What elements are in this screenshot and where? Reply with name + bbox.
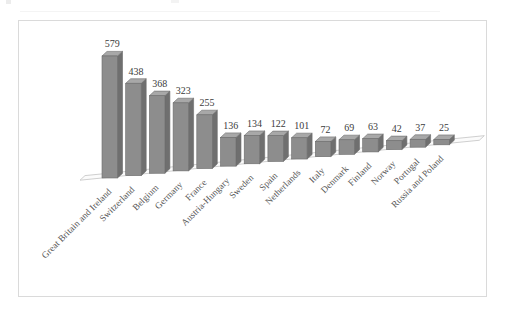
bar-front-face	[363, 139, 379, 152]
bar-front-face	[244, 136, 260, 164]
bar-side-face	[165, 91, 170, 173]
bar-front-face	[197, 115, 213, 169]
scan-artifact-mark	[171, 0, 179, 3]
bar-column[interactable]	[221, 133, 242, 166]
bar-column[interactable]	[410, 135, 431, 147]
scan-artifact-mark	[20, 11, 440, 12]
bar-front-face	[173, 103, 189, 171]
bar-front-face	[410, 139, 426, 147]
bar-column[interactable]	[126, 79, 147, 176]
bar-chart-plot-area: 579Great Britain and Ireland438Switzerla…	[19, 21, 486, 296]
chart-frame: 579Great Britain and Ireland438Switzerla…	[18, 20, 487, 297]
scan-artifact-mark	[6, 0, 11, 4]
bar-front-face	[126, 83, 142, 175]
bar-front-face	[339, 140, 355, 155]
bar-front-face	[102, 56, 118, 178]
bar-column[interactable]	[102, 51, 123, 178]
bar-front-face	[221, 137, 237, 166]
bar-side-face	[236, 133, 241, 166]
bar-column[interactable]	[197, 110, 218, 168]
bar-side-face	[118, 51, 123, 178]
bar-front-face	[268, 136, 284, 162]
bar-column[interactable]	[268, 131, 289, 161]
bar-column[interactable]	[244, 131, 265, 164]
bar-front-face	[386, 141, 402, 150]
bar-side-face	[141, 79, 146, 176]
bar-front-face	[434, 140, 450, 145]
bar-front-face	[315, 141, 331, 156]
bar-front-face	[149, 96, 165, 174]
bar-front-face	[292, 138, 308, 159]
bar-side-face	[212, 110, 217, 168]
bar-side-face	[260, 131, 265, 164]
scan-artifacts	[0, 0, 505, 16]
bar-column[interactable]	[292, 133, 313, 159]
bar-side-face	[189, 98, 194, 171]
bar-chart-svg	[19, 21, 486, 296]
bar-side-face	[283, 131, 288, 161]
bar-column[interactable]	[173, 98, 194, 171]
bar-column[interactable]	[149, 91, 170, 173]
bar-column[interactable]	[339, 135, 360, 154]
bar-column[interactable]	[315, 137, 336, 157]
bar-column[interactable]	[434, 135, 455, 145]
bar-column[interactable]	[363, 134, 384, 152]
bar-column[interactable]	[386, 136, 407, 149]
